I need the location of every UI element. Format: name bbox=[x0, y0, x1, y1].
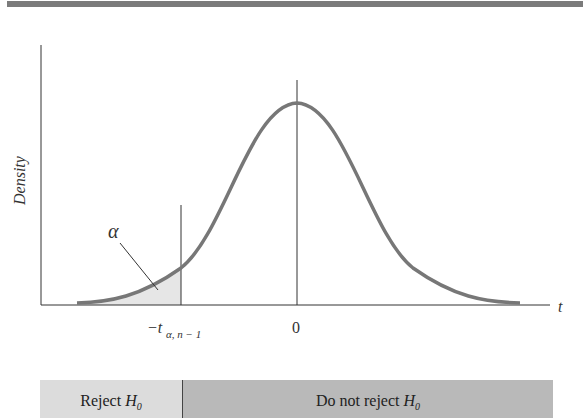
density-curve bbox=[77, 103, 520, 303]
do-not-reject-label: Do not reject H0 bbox=[183, 392, 553, 412]
alpha-pointer bbox=[120, 243, 158, 290]
tick-zero: 0 bbox=[292, 319, 300, 336]
x-axis-label: t bbox=[558, 298, 563, 315]
tick-critical-sub: α, n − 1 bbox=[166, 328, 201, 340]
reject-label: Reject H0 bbox=[40, 392, 182, 412]
tick-critical: −t bbox=[147, 319, 163, 336]
alpha-tail-area bbox=[77, 268, 181, 305]
do-not-reject-region-bar: Do not reject H0 bbox=[183, 380, 553, 418]
alpha-label: α bbox=[108, 220, 119, 242]
y-axis-label: Density bbox=[11, 155, 29, 206]
density-chart: α Density t 0 −t α, n − 1 bbox=[0, 0, 583, 380]
reject-region-bar: Reject H0 bbox=[40, 380, 183, 418]
